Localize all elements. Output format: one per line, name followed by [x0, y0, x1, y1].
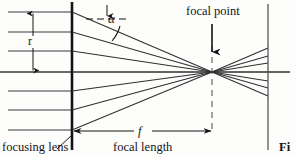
diverging-rays: [212, 48, 290, 96]
focusing-lens-label: focusing lens: [2, 141, 68, 154]
ray-diagram-svg: [0, 0, 296, 158]
diverging-ray: [212, 48, 268, 72]
alpha-angle-arc: [112, 26, 120, 41]
focal-point-label: focal point: [186, 5, 240, 18]
focal-length-name-label: focal length: [113, 141, 172, 154]
converging-ray: [72, 72, 212, 110]
diverging-ray: [212, 72, 268, 96]
figure-caption-fragment: Fi: [279, 141, 290, 154]
convergence-angle-label: α: [108, 12, 115, 25]
converging-ray: [72, 72, 212, 130]
converging-rays: [72, 12, 212, 130]
converging-ray: [72, 32, 212, 72]
beam-radius-label: r: [28, 35, 32, 47]
converging-ray: [72, 12, 212, 72]
converging-ray: [72, 51, 212, 72]
incoming-parallel-rays: [0, 12, 72, 130]
optics-figure: r α focal point f focal length focusing …: [0, 0, 296, 158]
focal-length-symbol-label: f: [138, 125, 141, 138]
converging-ray: [72, 72, 212, 91]
